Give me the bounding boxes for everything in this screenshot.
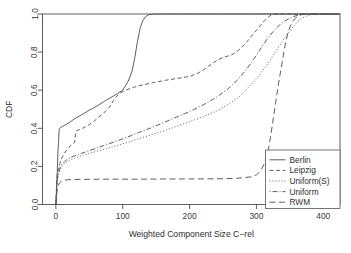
legend-label-uniform: Uniform	[290, 187, 319, 197]
x-tick-label: 100	[116, 211, 130, 221]
x-tick-label: 0	[54, 211, 59, 221]
legend-label-rwm: RWM	[290, 197, 311, 207]
y-tick-label: 0.4	[30, 122, 40, 134]
y-tick-label: 0.8	[30, 46, 40, 58]
y-axis-ticks: 0.00.20.40.60.81.0	[30, 8, 43, 210]
y-tick-label: 0.0	[30, 198, 40, 210]
x-tick-label: 200	[183, 211, 197, 221]
x-tick-label: 300	[249, 211, 263, 221]
y-tick-label: 1.0	[30, 8, 40, 20]
legend-label-uniform-s: Uniform(S)	[290, 176, 330, 186]
chart-legend: BerlinLeipzigUniform(S)UniformRWM	[266, 150, 341, 209]
cdf-chart-figure: 0100200300400 0.00.20.40.60.81.0 Weighte…	[0, 0, 351, 253]
chart-canvas: 0100200300400 0.00.20.40.60.81.0 Weighte…	[0, 0, 351, 253]
y-axis-title: CDF	[4, 100, 14, 118]
x-axis-title: Weighted Component Size C−rel	[129, 229, 254, 239]
x-tick-label: 400	[316, 211, 330, 221]
y-tick-label: 0.6	[30, 84, 40, 96]
legend-label-berlin: Berlin	[290, 155, 312, 165]
legend-label-leipzig: Leipzig	[290, 165, 317, 175]
y-tick-label: 0.2	[30, 160, 40, 172]
